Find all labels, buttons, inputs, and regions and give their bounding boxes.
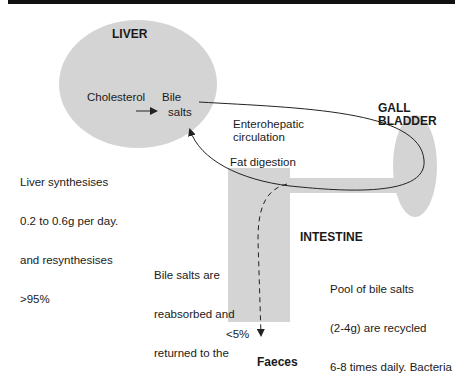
pool-note-line: (2-4g) are recycled (330, 322, 452, 335)
gall-bladder-label-line2: BLADDER (378, 115, 437, 128)
liver-synthesis-note: Liver synthesises 0.2 to 0.6g per day. a… (20, 150, 118, 319)
fat-digestion-label: Fat digestion (230, 156, 296, 169)
cholesterol-label: Cholesterol (87, 91, 145, 104)
intestine-label: INTESTINE (300, 231, 363, 244)
liver-note-line: >95% (20, 293, 118, 306)
liver-note-line: and resynthesises (20, 254, 118, 267)
enterohepatic-label-line2: circulation (233, 131, 285, 144)
intestine-shape (228, 168, 290, 322)
reabsorb-note-line: returned to the (154, 347, 235, 360)
pool-note-line: Pool of bile salts (330, 283, 452, 296)
reabsorption-note: Bile salts are reabsorbed and returned t… (154, 243, 235, 382)
faecal-loss-percent: <5% (226, 328, 249, 341)
bile-salts-label-line1: Bile (162, 91, 181, 104)
pool-note-line: 6-8 times daily. Bacteria (330, 361, 452, 374)
liver-note-line: Liver synthesises (20, 176, 118, 189)
enterohepatic-label-line1: Enterohepatic (233, 118, 304, 131)
bile-pool-note: Pool of bile salts (2-4g) are recycled 6… (330, 257, 452, 382)
liver-note-line: 0.2 to 0.6g per day. (20, 215, 118, 228)
bile-duct-shape (288, 178, 403, 193)
reabsorb-note-line: reabsorbed and (154, 308, 235, 321)
reabsorb-note-line: Bile salts are (154, 269, 235, 282)
faeces-label: Faeces (257, 356, 298, 369)
liver-label: LIVER (112, 28, 147, 41)
bile-salts-label-line2: salts (168, 106, 192, 119)
